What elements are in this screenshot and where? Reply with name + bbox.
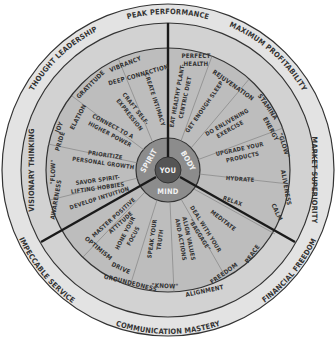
- outer-label-market-superiority: MARKET SUPERIORITY: [310, 137, 319, 224]
- center-label-you: YOU: [159, 166, 176, 175]
- mid-perfect-health-1: PERFECT: [181, 52, 210, 59]
- outer-label-visionary-thinking: VISIONARY THINKING: [27, 128, 36, 211]
- performance-wheel: SPIRIT BODY MIND YOU PEAK PERFORMANCE MA…: [0, 0, 336, 343]
- core-label-mind: MIND: [157, 187, 178, 196]
- mid-flow: "FLOW": [49, 159, 57, 184]
- mid-perfect-health-2: HEALTH: [184, 60, 209, 67]
